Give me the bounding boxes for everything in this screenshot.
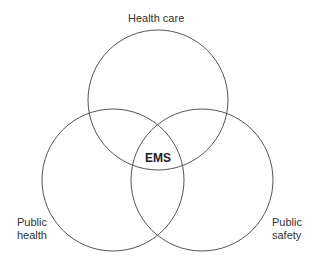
public-safety-label: Public safety xyxy=(272,216,302,242)
health-care-circle xyxy=(88,30,228,170)
public-health-line2: health xyxy=(17,229,47,242)
public-safety-circle xyxy=(131,109,273,251)
health-care-label: Health care xyxy=(128,12,184,25)
public-safety-line2: safety xyxy=(272,229,302,242)
venn-diagram xyxy=(0,0,317,261)
public-health-label: Public health xyxy=(17,216,47,242)
public-health-circle xyxy=(42,109,184,251)
public-health-line1: Public xyxy=(17,216,47,229)
ems-label: EMS xyxy=(145,151,171,165)
public-safety-line1: Public xyxy=(272,216,302,229)
